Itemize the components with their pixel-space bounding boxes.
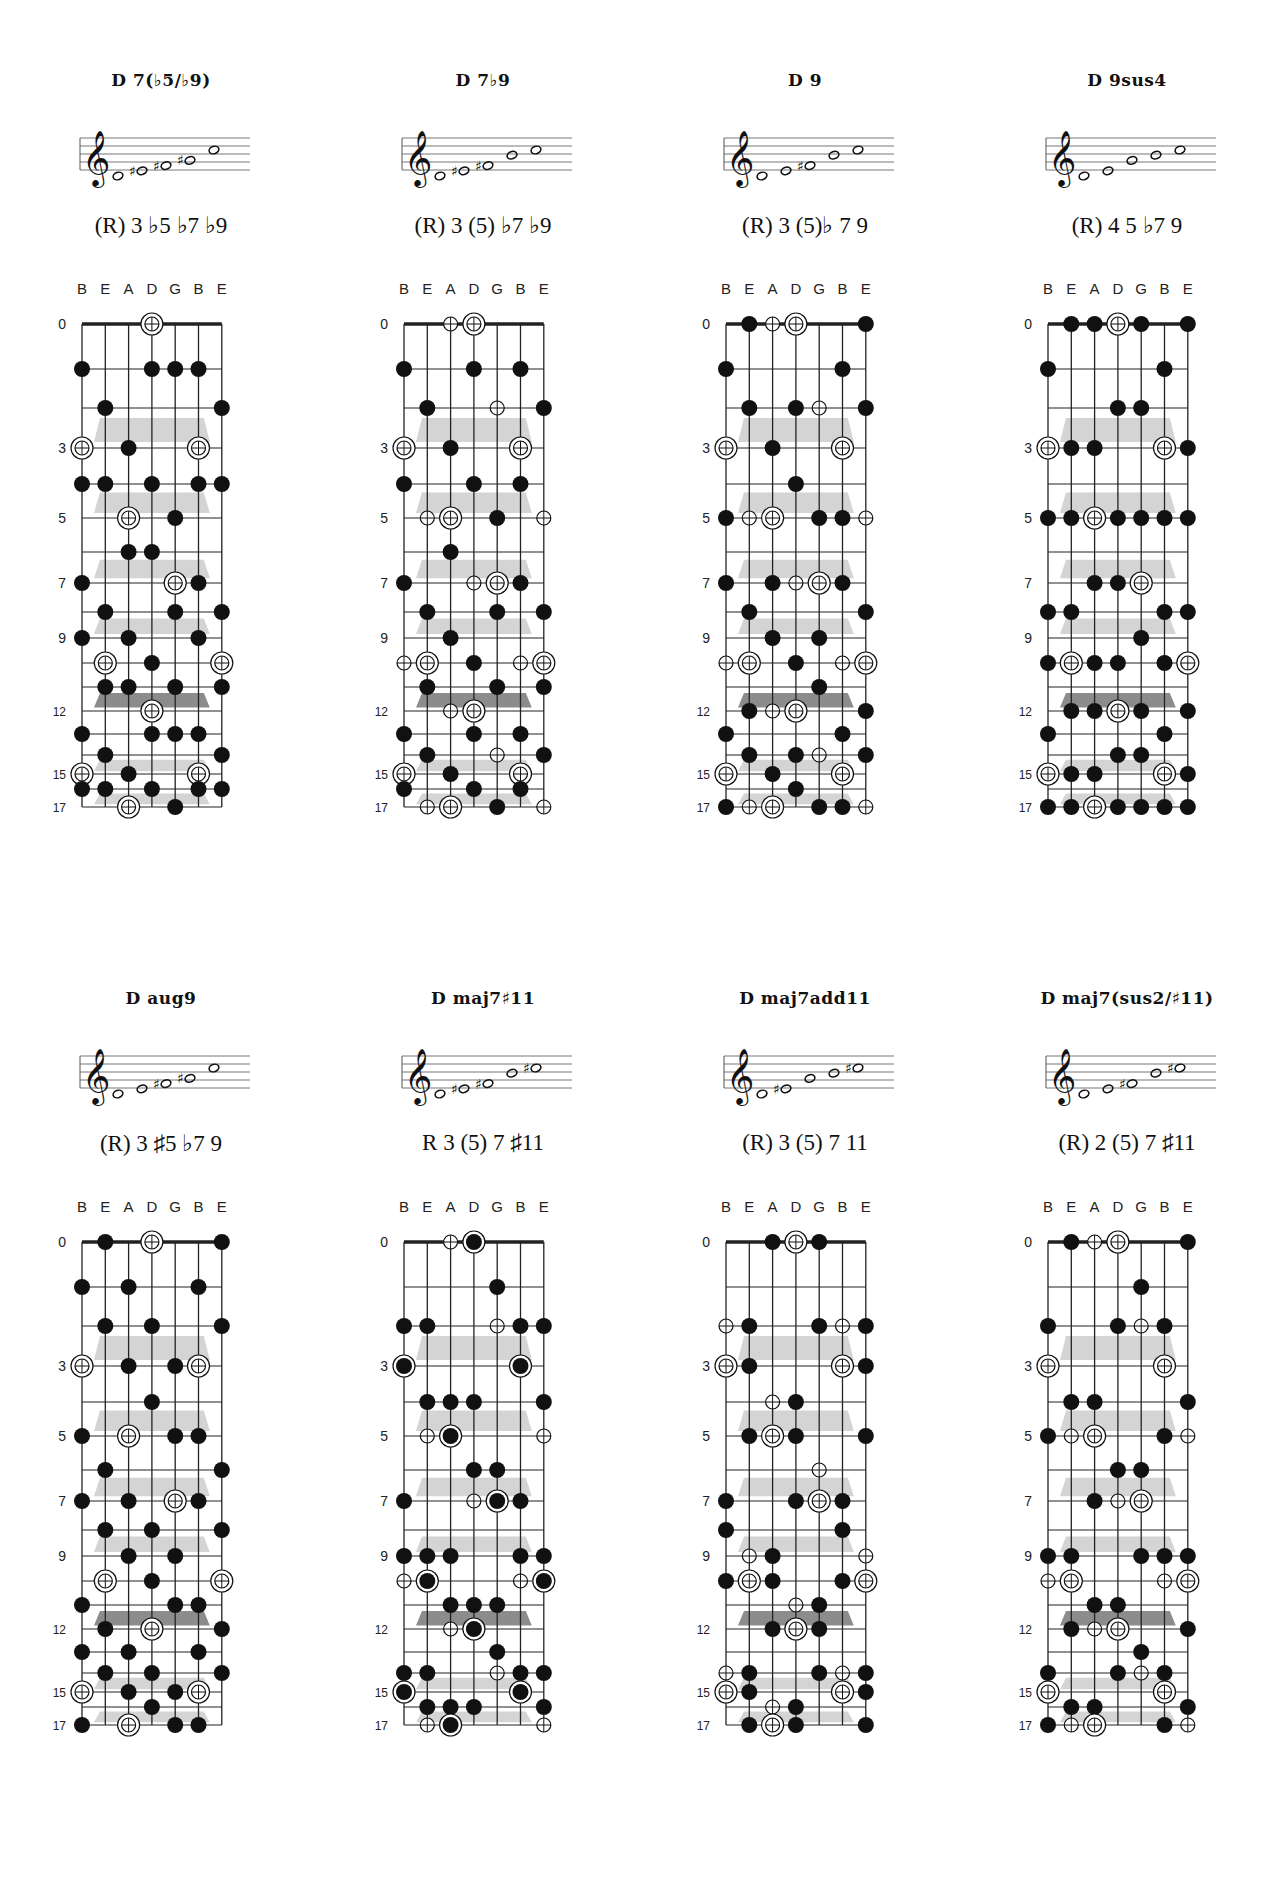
fret-number: 9 [380,630,388,646]
string-label: B [837,1198,847,1215]
string-label: D [468,1198,479,1215]
chord-tone-dot-icon [1087,316,1103,332]
root-double-ring-icon [1037,763,1059,785]
chord-tone-dot-icon [1087,1394,1103,1410]
root-double-ring-icon [762,507,784,529]
chord-tone-dot-icon [214,1522,230,1538]
chord-tone-dot-icon [1180,1548,1196,1564]
optional-tone-circle-icon [719,656,733,670]
chord-tone-dot-icon [788,1717,804,1733]
fret-number: 3 [58,440,66,456]
chord-panel: D maj7♯11 𝄞♯♯♯ R 3 (5) 7 ♯11 BEADGBE0357… [322,968,644,1868]
interval-formula: (R) 3 (5) 7 11 [644,1130,966,1156]
fret-number: 7 [58,1493,66,1509]
chord-tone-dot-icon [536,1394,552,1410]
optional-tone-circle-icon [537,1429,551,1443]
fret-number: 0 [380,316,388,332]
fret-number: 9 [1024,1548,1032,1564]
chord-tone-dot-icon [1040,655,1056,671]
chord-tone-dot-icon [396,726,412,742]
root-filled-ring-icon [393,1681,415,1703]
string-label: A [124,280,134,297]
chord-tone-dot-icon [489,679,505,695]
chord-tone-dot-icon [489,510,505,526]
fret-number: 15 [697,768,711,782]
root-double-ring-icon [71,1355,93,1377]
chord-tone-dot-icon [167,604,183,620]
root-double-ring-icon [1177,652,1199,674]
chord-tone-dot-icon [788,655,804,671]
string-label: G [813,1198,825,1215]
chord-tone-dot-icon [191,1644,207,1660]
chord-tone-dot-icon [1180,1394,1196,1410]
root-double-ring-icon [440,507,462,529]
chord-tone-dot-icon [489,1462,505,1478]
chord-tone-dot-icon [443,1394,459,1410]
chord-tone-dot-icon [1063,1234,1079,1250]
chord-tone-dot-icon [536,400,552,416]
string-label: D [146,280,157,297]
chord-tone-dot-icon [1063,766,1079,782]
root-double-ring-icon [533,652,555,674]
root-double-ring-icon [118,1714,140,1736]
chord-tone-dot-icon [144,726,160,742]
chord-tone-dot-icon [1110,655,1126,671]
chord-tone-dot-icon [214,747,230,763]
whole-note-icon [756,1089,768,1099]
chord-tone-dot-icon [74,1493,90,1509]
chord-tone-dot-icon [489,1279,505,1295]
string-label: A [124,1198,134,1215]
chord-tone-dot-icon [167,361,183,377]
chord-tone-dot-icon [788,1493,804,1509]
music-staff: 𝄞♯♯♯ [0,120,322,194]
optional-tone-circle-icon [1088,1235,1102,1249]
chord-tone-dot-icon [191,476,207,492]
string-label: E [539,280,549,297]
string-label: B [77,1198,87,1215]
optional-tone-circle-icon [742,800,756,814]
fret-number: 15 [697,1686,711,1700]
optional-tone-circle-icon [859,800,873,814]
chord-tone-dot-icon [167,1684,183,1700]
root-double-ring-icon [715,437,737,459]
optional-tone-circle-icon [1111,1494,1125,1508]
optional-tone-circle-icon [1134,1666,1148,1680]
chord-tone-dot-icon [765,1548,781,1564]
chord-tone-dot-icon [788,781,804,797]
chord-tone-dot-icon [718,799,734,815]
optional-tone-circle-icon [420,511,434,525]
chord-tone-dot-icon [1157,510,1173,526]
chord-tone-dot-icon [419,604,435,620]
optional-tone-circle-icon [1064,1429,1078,1443]
fret-number: 9 [1024,630,1032,646]
chord-tone-dot-icon [214,1318,230,1334]
root-double-ring-icon [832,1681,854,1703]
chord-tone-dot-icon [741,1665,757,1681]
root-double-ring-icon [71,1681,93,1703]
root-double-ring-icon [1130,1490,1152,1512]
fretboard-diagram: BEADGBE03579121517 [0,260,322,824]
chord-tone-dot-icon [1180,316,1196,332]
whole-note-icon [756,171,768,181]
sharp-icon: ♯ [153,158,160,174]
fret-number: 0 [702,1234,710,1250]
whole-note-icon [458,1084,470,1094]
chord-tone-dot-icon [97,1665,113,1681]
string-label: D [468,280,479,297]
chord-tone-dot-icon [1040,1665,1056,1681]
chord-tone-dot-icon [97,1522,113,1538]
chord-tone-dot-icon [1063,1699,1079,1715]
root-double-ring-icon [71,437,93,459]
interval-formula: (R) 4 5 ♭7 9 [966,212,1288,239]
chord-tone-dot-icon [466,655,482,671]
root-filled-ring-icon [463,1618,485,1640]
chord-tone-dot-icon [1180,440,1196,456]
music-staff: 𝄞♯♯♯ [322,1038,644,1112]
treble-clef-icon: 𝄞 [726,129,754,188]
treble-clef-icon: 𝄞 [1048,1047,1076,1106]
chord-tone-dot-icon [1063,604,1079,620]
chord-tone-dot-icon [443,766,459,782]
root-double-ring-icon [440,796,462,818]
chord-tone-dot-icon [214,1621,230,1637]
chord-tone-dot-icon [121,544,137,560]
